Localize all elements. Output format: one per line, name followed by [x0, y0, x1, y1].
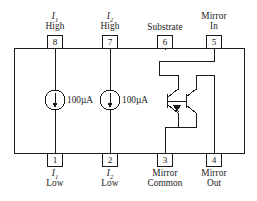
pin-label-mirror-in-line1: Mirror	[201, 11, 226, 21]
pin-label-mirror-out-line1: Mirror	[201, 168, 226, 178]
pin-label-mirror-out-line2: Out	[207, 178, 221, 188]
pin-number-4[interactable]: 4	[207, 155, 222, 165]
pin-number-8[interactable]: 8	[48, 37, 63, 47]
pin-label-i2-high-line2: High	[101, 21, 120, 31]
current-source-1-value: 100µA	[67, 95, 93, 105]
current-source-2-value: 100µA	[122, 95, 148, 105]
pin-label-substrate: Substrate	[135, 22, 195, 32]
pin-number-1[interactable]: 1	[48, 155, 63, 165]
pin-label-i1-low-line2: Low	[46, 178, 63, 188]
pin-label-i1-high-line2: High	[46, 21, 65, 31]
wire-q1-collector-slant	[168, 89, 178, 97]
pin-label-mirror-common-line1: Mirror	[152, 168, 177, 178]
pin-label-mirror-common: Mirror Common	[135, 168, 195, 189]
figure-canvas: I1 High I2 High Substrate Mirror In 8 7 …	[0, 0, 257, 201]
pin-label-substrate-text: Substrate	[147, 22, 183, 32]
pin-label-i1-low: I1 Low	[33, 168, 77, 189]
pin-number-3[interactable]: 3	[158, 155, 173, 165]
pin-label-i2-low-line2: Low	[101, 178, 118, 188]
wire-q2-emitter-slant	[186, 105, 196, 113]
pin-number-7[interactable]: 7	[103, 37, 118, 47]
pin-label-mirror-common-line2: Common	[147, 178, 182, 188]
pin-number-6[interactable]: 6	[158, 37, 173, 47]
pin-label-i2-low: I2 Low	[88, 168, 132, 189]
pin-label-i1-high: I1 High	[33, 11, 77, 32]
pin-number-2[interactable]: 2	[103, 155, 118, 165]
pin-label-mirror-out: Mirror Out	[192, 168, 236, 189]
pin-label-i2-high: I2 High	[88, 11, 132, 32]
pin-label-mirror-in: Mirror In	[192, 11, 236, 32]
pin-number-5[interactable]: 5	[207, 37, 222, 47]
pin-label-mirror-in-line2: In	[210, 21, 218, 31]
wire-q2-collector-slant	[186, 89, 196, 97]
